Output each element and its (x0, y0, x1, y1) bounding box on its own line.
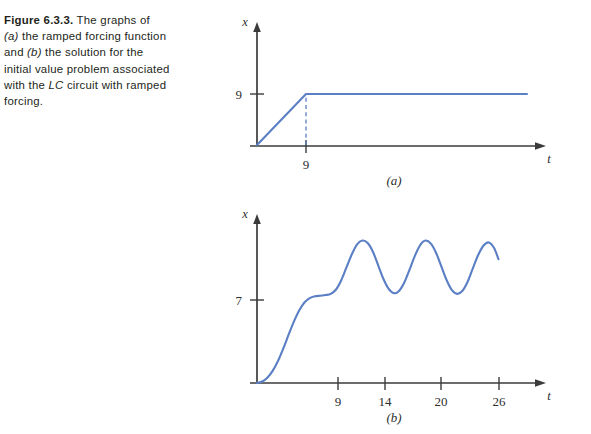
chart-b-xtick-label-20: 20 (435, 394, 448, 409)
chart-panel-b: 7 9 14 20 26 x t (b) (222, 200, 584, 432)
chart-b-y-axis (253, 214, 261, 383)
figure-number: Figure 6.3.3. (4, 14, 73, 26)
chart-b-xtick-label-14: 14 (379, 394, 393, 409)
caption-line-6: forcing. (4, 95, 43, 107)
caption-line-3: the solution for the (42, 46, 144, 58)
chart-a-panel-title: (a) (386, 173, 401, 188)
x-axis-arrowhead (535, 379, 546, 387)
chart-a-series-ramped-forcing (257, 94, 527, 145)
chart-b-x-axis-label: t (547, 389, 551, 403)
chart-a-x-axis-label: t (547, 152, 551, 166)
chart-b-xtick-label-9: 9 (335, 394, 342, 409)
caption-line-1: The graphs of (73, 14, 149, 26)
caption-line-3-pre: and (4, 46, 27, 58)
chart-b-ytick-label-7: 7 (236, 293, 243, 308)
caption-ref-a: (a) (4, 30, 19, 42)
x-axis-arrowhead (535, 142, 546, 150)
chart-b-y-axis-label: x (241, 207, 248, 221)
y-axis-arrowhead (253, 22, 261, 32)
caption-line-2: the ramped forcing function (19, 30, 167, 42)
chart-panel-a: 9 9 x t (a) (222, 8, 584, 198)
figure-caption: Figure 6.3.3. The graphs of (a) the ramp… (4, 12, 216, 109)
caption-line-5-pre: with the (4, 79, 48, 91)
caption-term-lc: LC (48, 79, 63, 91)
chart-b-xtick-label-26: 26 (493, 394, 507, 409)
chart-a-x-axis (250, 142, 546, 150)
chart-a-ytick-label-9: 9 (236, 87, 243, 102)
caption-ref-b: (b) (27, 46, 42, 58)
chart-b-panel-title: (b) (386, 410, 401, 425)
caption-line-5: circuit with ramped (64, 79, 167, 91)
chart-a-y-axis-label: x (241, 15, 248, 29)
chart-b-series-solution (257, 241, 498, 383)
y-axis-arrowhead (253, 214, 261, 224)
chart-b-x-axis (250, 379, 546, 387)
chart-a-y-axis (253, 22, 261, 146)
caption-line-4: initial value problem associated (4, 63, 170, 75)
chart-a-xtick-label-9: 9 (303, 157, 310, 172)
chart-a-svg: 9 9 x t (a) (222, 8, 584, 198)
chart-b-svg: 7 9 14 20 26 x t (b) (222, 200, 584, 432)
